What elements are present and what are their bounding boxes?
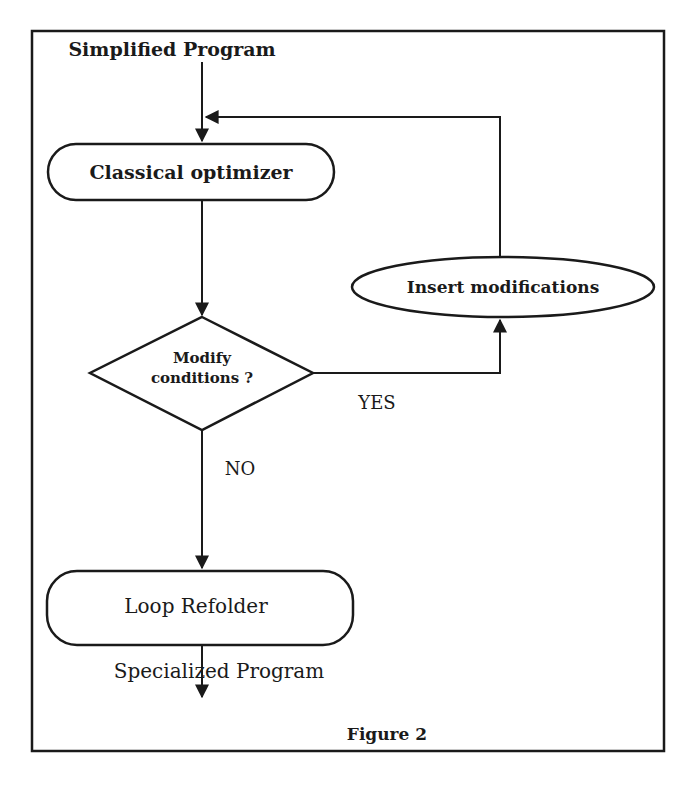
- decision-label-line1: Modify: [173, 349, 232, 367]
- node-insert-modifications: Insert modifications: [352, 257, 654, 317]
- flowchart-figure: Simplified Program Classical optimizer M…: [0, 0, 691, 791]
- bleed-through-background: [0, 0, 691, 791]
- insert-modifications-label: Insert modifications: [407, 277, 599, 297]
- yes-edge-label: YES: [357, 392, 395, 413]
- classical-optimizer-label: Classical optimizer: [89, 161, 293, 183]
- output-label: Specialized Program: [114, 659, 325, 683]
- node-classical-optimizer: Classical optimizer: [48, 144, 334, 200]
- figure-caption: Figure 2: [347, 724, 427, 744]
- loop-refolder-label: Loop Refolder: [124, 594, 268, 618]
- decision-label-line2: conditions ?: [151, 369, 253, 387]
- no-edge-label: NO: [225, 458, 256, 479]
- node-loop-refolder: Loop Refolder: [47, 571, 353, 645]
- input-label: Simplified Program: [68, 38, 275, 60]
